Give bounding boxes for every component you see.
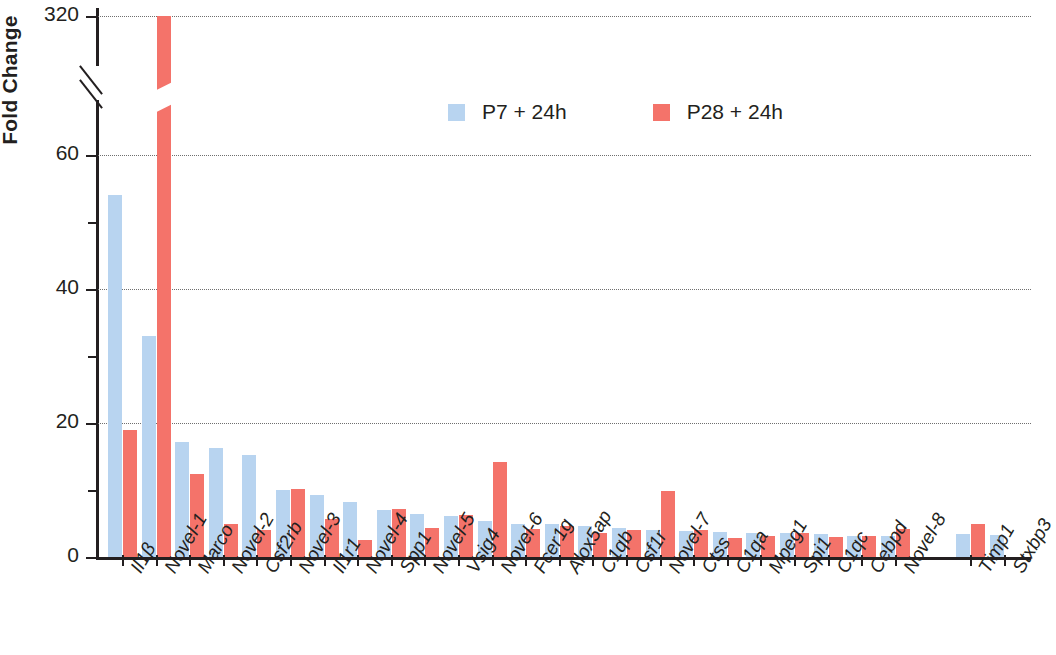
bar-group [242, 8, 272, 557]
bar-group [881, 8, 911, 557]
y-tick-label-0: 0 [67, 543, 79, 567]
bar-group [511, 8, 541, 557]
bar-group [209, 8, 239, 557]
bar-group [343, 8, 373, 557]
bar-groups [96, 8, 1031, 560]
plot-area [96, 8, 1031, 560]
bar-group [108, 8, 138, 557]
x-axis-tick-labels: Il1βNovel-1MarcoNovel-2Csf2rbNovel-3Il1r… [96, 562, 1031, 655]
bar-red [123, 430, 137, 557]
legend-label-p7: P7 + 24h [482, 100, 567, 124]
bar-blue [108, 195, 122, 557]
bar-group [578, 8, 608, 557]
bar-red [157, 16, 171, 557]
bar-blue [956, 534, 970, 557]
bar-group [276, 8, 306, 557]
y-tick-label-40: 40 [56, 275, 79, 299]
bar-group [679, 8, 709, 557]
bar-group [990, 8, 1020, 557]
bar-group [847, 8, 877, 557]
legend-swatch-p28-icon [653, 104, 670, 121]
bar-group [310, 8, 340, 557]
bar-group [377, 8, 407, 557]
bar-group [410, 8, 440, 557]
bar-group [746, 8, 776, 557]
y-tick-label-60: 60 [56, 141, 79, 165]
legend-item-p28: P28 + 24h [653, 100, 783, 124]
bar-group [612, 8, 642, 557]
y-tick-label-20: 20 [56, 409, 79, 433]
legend-item-p7: P7 + 24h [448, 100, 567, 124]
bar-group [444, 8, 474, 557]
bar-group [814, 8, 844, 557]
bar-group [646, 8, 676, 557]
bar-group [478, 8, 508, 557]
bar-group [780, 8, 810, 557]
bar-group [956, 8, 986, 557]
bar-group [713, 8, 743, 557]
legend-label-p28: P28 + 24h [687, 100, 783, 124]
bar-group [142, 8, 172, 557]
chart-legend: P7 + 24h P28 + 24h [448, 100, 783, 124]
y-axis-title: Fold Change [0, 0, 22, 190]
bar-blue [142, 336, 156, 557]
legend-swatch-p7-icon [448, 104, 465, 121]
bar-group [545, 8, 575, 557]
y-tick-label-320: 320 [44, 2, 79, 26]
bar-break-marker [155, 81, 174, 112]
bar-group [175, 8, 205, 557]
